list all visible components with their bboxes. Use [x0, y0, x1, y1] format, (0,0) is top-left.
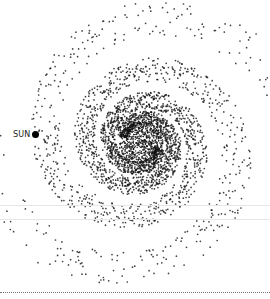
bottom-dotted-rule	[0, 292, 270, 293]
spiral-galaxy-diagram	[0, 0, 270, 299]
sun-marker	[32, 131, 39, 138]
faint-guide-line	[0, 205, 270, 206]
faint-guide-line	[0, 219, 270, 220]
sun-label: SUN	[13, 130, 31, 139]
